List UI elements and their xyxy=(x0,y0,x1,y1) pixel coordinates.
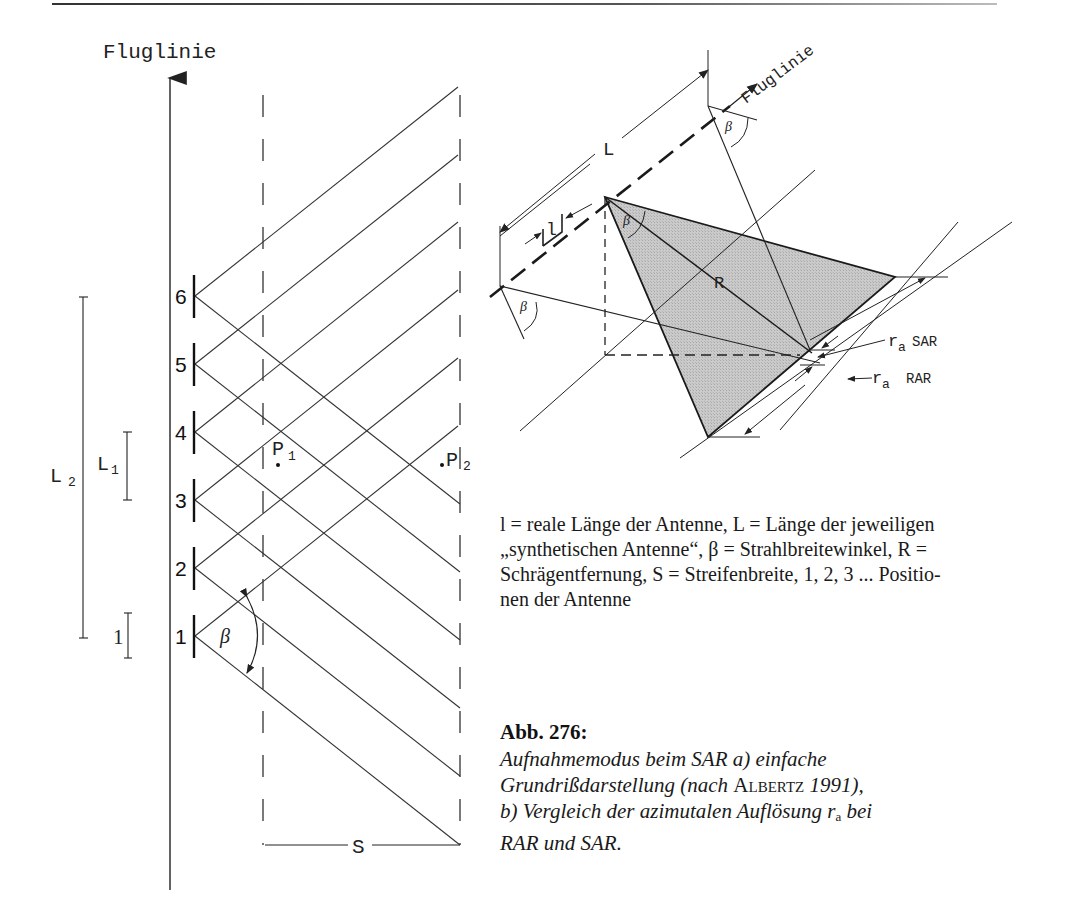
beam-angle-arc xyxy=(247,597,258,673)
svg-text:SAR: SAR xyxy=(912,334,938,350)
svg-text:a: a xyxy=(898,340,906,355)
flight-line-label-a: Fluglinie xyxy=(103,41,216,64)
legend-line: Schrägentfernung, S = Streifenbreite, 1,… xyxy=(500,562,1045,587)
legend-line: nen der Antenne xyxy=(500,587,1045,612)
figure-number: Abb. 276: xyxy=(500,720,1045,745)
synthetic-length-label: L xyxy=(603,139,614,161)
beam-angle-label-a: β xyxy=(219,625,230,648)
point-p2-label: P xyxy=(446,449,458,472)
beam-angle-label-right: β xyxy=(724,119,732,134)
svg-text:r: r xyxy=(872,369,882,388)
caption-line: Grundrißdarstellung (nach Albertz 1991), xyxy=(500,772,1045,798)
caption-year: 1991), xyxy=(804,773,864,797)
scale-label-l2-sub: 2 xyxy=(68,475,76,490)
scale-bar-l xyxy=(124,613,132,658)
antenna-position-3: 3 xyxy=(175,489,187,512)
flight-line-label-b: Fluglinie xyxy=(738,42,818,108)
legend-line: „synthetischen Antenne“, β = Strahlbreit… xyxy=(500,537,1045,562)
caption-text: Grundrißdarstellung (nach xyxy=(500,773,733,797)
antenna-position-1: 1 xyxy=(175,625,187,648)
scale-bar-l2 xyxy=(79,297,88,638)
point-p1-label: P xyxy=(272,438,284,461)
point-p2-sub: 2 xyxy=(463,459,471,474)
antenna-position-labels: 6 5 4 3 2 1 xyxy=(175,285,187,648)
antenna-position-4: 4 xyxy=(175,421,187,444)
swath-width-label: S xyxy=(352,836,365,859)
scale-label-l2: L xyxy=(50,465,62,488)
caption-line: Aufnahmemodus beim SAR a) einfache xyxy=(500,746,1045,772)
antenna-position-5: 5 xyxy=(175,353,187,376)
resolution-sar-label: r a SAR xyxy=(888,332,938,355)
figure-legend: l = reale Länge der Antenne, L = Länge d… xyxy=(500,512,1045,612)
range-label: R xyxy=(714,274,724,293)
caption-text: b) Vergleich der azimutalen Auflösung r xyxy=(500,799,835,823)
figure-caption: Aufnahmemodus beim SAR a) einfache Grund… xyxy=(500,746,1045,856)
scale-label-l1-sub: 1 xyxy=(111,463,119,478)
caption-author: Albertz xyxy=(733,773,804,797)
antenna-position-2: 2 xyxy=(175,557,187,580)
scale-label-l1: L xyxy=(97,453,109,476)
beam-angle-label-center: β xyxy=(622,213,630,228)
resolution-rar-label: r a RAR xyxy=(872,369,932,392)
diagram-b-resolution-comparison: Fluglinie L l β β β R xyxy=(490,42,1012,458)
legend-line: l = reale Länge der Antenne, L = Länge d… xyxy=(500,512,1045,537)
antenna-beams xyxy=(195,87,460,845)
beam-angle-label-left: β xyxy=(519,299,527,314)
swath-boundaries xyxy=(263,95,460,845)
real-length-label: l xyxy=(546,220,557,240)
point-p1: P 1 xyxy=(272,438,296,467)
svg-text:a: a xyxy=(882,377,890,392)
point-p2: P 2 xyxy=(440,449,471,474)
scale-bar-l1 xyxy=(123,432,132,500)
caption-text: bei xyxy=(841,799,872,823)
point-p1-sub: 1 xyxy=(288,449,296,464)
scale-label-l: 1 xyxy=(113,625,124,649)
svg-text:RAR: RAR xyxy=(906,371,932,387)
svg-text:r: r xyxy=(888,332,898,351)
caption-line: RAR und SAR. xyxy=(500,830,1045,856)
caption-line: b) Vergleich der azimutalen Auflösung ra… xyxy=(500,798,1045,830)
antenna-position-6: 6 xyxy=(175,285,187,308)
